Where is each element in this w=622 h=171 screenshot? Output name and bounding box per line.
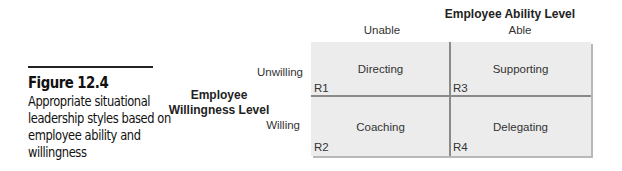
quadrant-r1: Directing R1 — [311, 42, 450, 96]
quadrant-style: Delegating — [450, 121, 591, 133]
leadership-style-matrix: Directing R1 Supporting R3 Coaching R2 D… — [311, 42, 591, 156]
y-axis-title: Employee Willingness Level — [160, 88, 278, 118]
quadrant-code: R2 — [314, 141, 329, 153]
horizontal-divider — [311, 95, 591, 97]
y-axis-title-line1: Employee — [160, 88, 278, 103]
x-tick-unable: Unable — [352, 24, 412, 36]
vertical-divider — [449, 42, 451, 156]
quadrant-r2: Coaching R2 — [311, 96, 450, 156]
quadrant-style: Directing — [311, 63, 450, 75]
caption-rule — [28, 66, 153, 68]
y-tick-willing: Willing — [240, 119, 300, 131]
y-tick-unwilling: Unwilling — [240, 66, 303, 78]
quadrant-style: Coaching — [311, 121, 450, 133]
x-tick-able: Able — [490, 24, 550, 36]
figure-label: Figure 12.4 — [28, 74, 108, 92]
quadrant-style: Supporting — [450, 63, 591, 75]
quadrant-code: R1 — [314, 82, 329, 94]
quadrant-code: R3 — [453, 82, 468, 94]
figure-description: Appropriate situational leadership style… — [28, 93, 172, 161]
quadrant-r3: Supporting R3 — [450, 42, 591, 96]
quadrant-code: R4 — [453, 141, 468, 153]
y-axis-title-line2: Willingness Level — [160, 103, 278, 118]
x-axis-title: Employee Ability Level — [425, 7, 595, 21]
quadrant-r4: Delegating R4 — [450, 96, 591, 156]
